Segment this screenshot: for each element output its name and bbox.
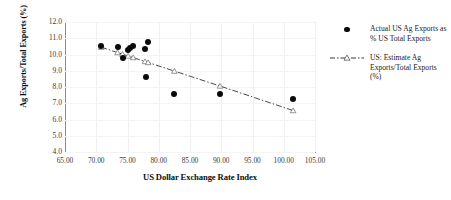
gridline-vertical [315, 22, 316, 152]
x-axis-title: US Dollar Exchange Rate Index [60, 172, 340, 182]
y-tick-label: 5.0 [34, 131, 62, 140]
legend-item-estimate-label: US: Estimate Ag Exports/Total Exports (%… [370, 53, 437, 81]
legend-item-actual[interactable]: Actual US Ag Exports as % US Total Expor… [330, 24, 450, 43]
filled-circle-icon [330, 24, 368, 34]
y-tick-label: 7.0 [34, 98, 62, 107]
y-tick-label: 4.0 [34, 147, 62, 156]
dash-dot-triangle-icon [330, 53, 368, 63]
y-tick-label: 10.0 [34, 50, 62, 59]
y-tick-label: 12.0 [34, 17, 62, 26]
y-tick-label: 8.0 [34, 82, 62, 91]
scatter-point [115, 44, 121, 50]
x-axis-ticks: 65.0070.0075.0080.0085.0090.0095.00100.0… [0, 156, 451, 172]
plot-area [65, 22, 315, 152]
legend-item-actual-label: Actual US Ag Exports as % US Total Expor… [370, 24, 446, 43]
y-tick-label: 11.0 [34, 33, 62, 42]
scatter-point [171, 91, 177, 97]
gridline-horizontal [65, 152, 315, 153]
scatter-point [120, 55, 126, 61]
y-axis-title: Ag Exports/Total Exports (%) [19, 0, 28, 132]
chart-figure: Ag Exports/Total Exports (%) US Dollar E… [0, 0, 451, 200]
chart-legend: Actual US Ag Exports as % US Total Expor… [330, 24, 450, 92]
estimate-trend-line [65, 22, 315, 152]
y-tick-label: 9.0 [34, 66, 62, 75]
x-tick-label: 105.00 [295, 156, 335, 165]
legend-item-estimate[interactable]: US: Estimate Ag Exports/Total Exports (%… [330, 53, 450, 82]
y-tick-label: 6.0 [34, 115, 62, 124]
scatter-point [142, 46, 148, 52]
